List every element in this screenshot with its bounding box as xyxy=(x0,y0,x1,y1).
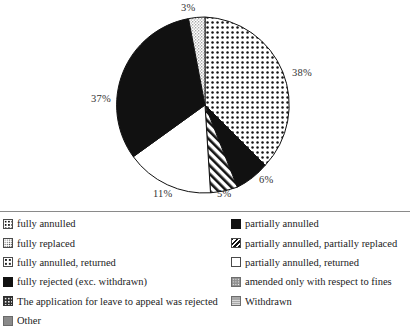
pie-label-fully-rejected: 37% xyxy=(91,93,111,104)
legend-swatch-dots-coarse-icon xyxy=(3,219,13,229)
legend-label: fully annulled xyxy=(17,218,76,229)
pie-slices xyxy=(117,17,290,193)
legend-swatch-white-icon xyxy=(231,257,241,267)
legend-item-partially-annulled[interactable]: partially annulled xyxy=(231,214,410,233)
legend-swatch-dark-dots-icon xyxy=(3,296,13,306)
legend-swatch-dots-medium-icon xyxy=(3,257,13,267)
legend-item-partially-annulled-returned[interactable]: partially annulled, returned xyxy=(231,253,410,272)
legend-swatch-hatch-icon xyxy=(231,238,241,248)
legend-item-fully-replaced[interactable]: fully replaced xyxy=(3,233,231,252)
pie-chart-area: 38% 6% 5% 11% 37% 3% xyxy=(0,0,410,210)
legend-label: Other xyxy=(17,315,41,326)
pie-chart-graphic xyxy=(0,0,410,210)
legend-swatch-gray-dots-icon xyxy=(231,277,241,287)
legend-item-fully-annulled-returned[interactable]: fully annulled, returned xyxy=(3,253,231,272)
legend-label: fully rejected (exc. withdrawn) xyxy=(17,276,147,287)
legend-item-amended-fines[interactable]: amended only with respect to fines xyxy=(231,272,410,291)
legend-swatch-gray-solid-icon xyxy=(3,316,13,326)
legend-swatch-dots-fine-icon xyxy=(3,238,13,248)
legend-label: Withdrawn xyxy=(245,296,292,307)
legend-column-right: partially annulled partially annulled, p… xyxy=(231,214,410,311)
legend-item-fully-annulled[interactable]: fully annulled xyxy=(3,214,231,233)
legend-label: partially annulled, returned xyxy=(245,257,359,268)
legend-label: The application for leave to appeal was … xyxy=(17,296,218,307)
legend-swatch-solid-black-icon xyxy=(3,277,13,287)
legend-item-other[interactable]: Other xyxy=(3,311,231,330)
pie-label-fully-replaced: 3% xyxy=(181,2,195,13)
legend-swatch-gray-light-icon xyxy=(231,296,241,306)
pie-label-fully-annulled: 38% xyxy=(292,67,312,78)
legend-item-leave-to-appeal-rejected[interactable]: The application for leave to appeal was … xyxy=(3,292,231,311)
legend-label: partially annulled xyxy=(245,218,319,229)
pie-label-partially-annulled-returned: 11% xyxy=(153,188,172,199)
legend-column-left: fully annulled fully replaced fully annu… xyxy=(3,214,231,330)
legend-item-withdrawn[interactable]: Withdrawn xyxy=(231,292,410,311)
legend-swatch-solid-black-icon xyxy=(231,219,241,229)
legend-divider xyxy=(0,211,410,212)
pie-label-partially-annulled: 6% xyxy=(259,174,273,185)
legend-item-fully-rejected[interactable]: fully rejected (exc. withdrawn) xyxy=(3,272,231,291)
legend-item-partially-annulled-partially-replaced[interactable]: partially annulled, partially replaced xyxy=(231,233,410,252)
pie-label-partially-annulled-partially-replaced: 5% xyxy=(217,188,231,199)
legend-label: partially annulled, partially replaced xyxy=(245,238,397,249)
legend-label: fully replaced xyxy=(17,238,75,249)
legend: fully annulled fully replaced fully annu… xyxy=(0,214,410,336)
legend-label: fully annulled, returned xyxy=(17,257,116,268)
legend-label: amended only with respect to fines xyxy=(245,276,392,287)
